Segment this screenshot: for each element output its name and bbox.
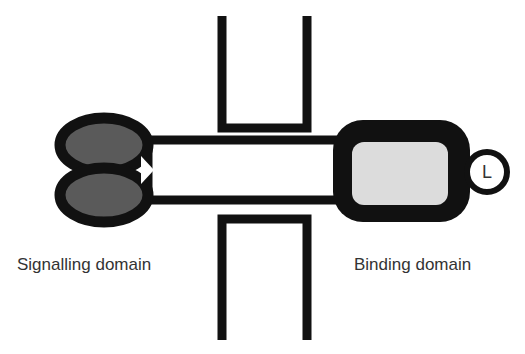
signalling-lobe-lower (60, 168, 148, 222)
diagram-canvas: L (0, 0, 525, 354)
binding-domain-label: Binding domain (354, 255, 471, 275)
membrane-upper-leaflet-icon (222, 16, 307, 128)
membrane-lower-leaflet-icon (222, 219, 307, 340)
ligand-label: L (482, 162, 492, 182)
connecting-rod-group (148, 140, 356, 200)
signalling-domain-group (60, 118, 154, 222)
membrane-upper-group (222, 16, 307, 128)
signalling-domain-label: Signalling domain (17, 255, 151, 275)
binding-pocket (352, 142, 448, 205)
membrane-lower-group (222, 219, 307, 340)
binding-domain-group (333, 120, 470, 222)
receptor-diagram: L Signalling domain Binding domain (0, 0, 525, 354)
connecting-rod (148, 140, 356, 200)
ligand-group: L (467, 152, 507, 192)
